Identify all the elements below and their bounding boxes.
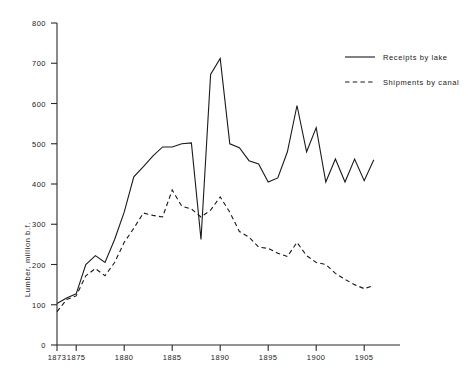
legend-label-shipments-by-canal: Shipments by canal — [383, 78, 459, 87]
y-tick-label: 700 — [32, 59, 46, 68]
x-tick-label: 1890 — [211, 353, 230, 362]
y-tick-label: 200 — [32, 261, 46, 270]
figure-container: 800 700 600 500 400 300 200 100 0 1873 1… — [0, 0, 471, 382]
y-tick-label: 0 — [41, 341, 46, 350]
x-tick-label: 1880 — [115, 353, 134, 362]
x-axis-tick-labels: 1873 1875 1880 1885 1890 1895 1900 1905 — [48, 353, 374, 362]
x-tick-label: 1895 — [259, 353, 278, 362]
series-receipts-by-lake — [57, 58, 374, 303]
x-tick-label: 1875 — [67, 353, 86, 362]
legend-label-receipts-by-lake: Receipts by lake — [383, 53, 448, 62]
y-tick-label: 500 — [32, 140, 46, 149]
y-axis-title: Lumber, million b.f. — [23, 222, 32, 297]
line-chart: 800 700 600 500 400 300 200 100 0 1873 1… — [0, 0, 471, 382]
y-axis-ticks — [51, 23, 57, 345]
y-tick-label: 600 — [32, 100, 46, 109]
x-tick-label: 1900 — [307, 353, 326, 362]
x-tick-label: 1873 — [48, 353, 67, 362]
y-tick-label: 100 — [32, 301, 46, 310]
y-axis-tick-labels: 800 700 600 500 400 300 200 100 0 — [32, 19, 46, 350]
y-tick-label: 400 — [32, 180, 46, 189]
series-shipments-by-canal — [57, 190, 374, 312]
x-tick-label: 1905 — [355, 353, 374, 362]
legend: Receipts by lake Shipments by canal — [345, 53, 459, 87]
y-tick-label: 300 — [32, 220, 46, 229]
x-axis-ticks — [57, 345, 364, 351]
x-tick-label: 1885 — [163, 353, 182, 362]
y-tick-label: 800 — [32, 19, 46, 28]
